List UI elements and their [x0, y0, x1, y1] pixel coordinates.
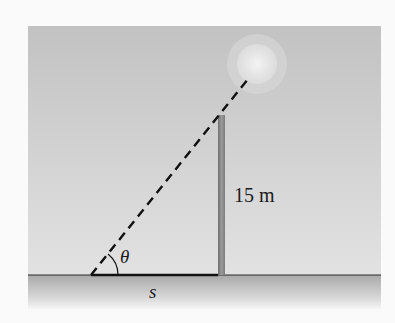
sun-icon [227, 34, 287, 94]
shadow-length-label: s [149, 281, 156, 302]
shadow-diagram: θ 15 m s [0, 0, 395, 323]
sky-background [28, 26, 381, 275]
pole [218, 115, 225, 275]
diagram-stage: θ 15 m s [0, 0, 395, 323]
ground [28, 275, 381, 309]
height-label: 15 m [234, 184, 275, 206]
angle-label: θ [120, 246, 129, 267]
